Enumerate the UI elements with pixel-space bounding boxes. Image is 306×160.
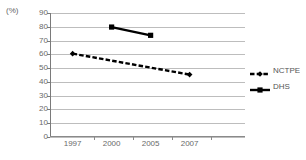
- legend-label-nctpe: NCTPE: [273, 66, 300, 75]
- y-tick-mark-30: [47, 96, 50, 97]
- y-tick-mark-10: [47, 123, 50, 124]
- y-tick-mark-50: [47, 68, 50, 69]
- y-tick-mark-40: [47, 82, 50, 83]
- legend-key-dhs-icon: [250, 81, 270, 91]
- series-dhs: [109, 24, 153, 37]
- y-tick-mark-90: [47, 13, 50, 14]
- data-point-nctpe-2007: [187, 72, 193, 78]
- x-axis-tick-labels: 1997200020052007: [50, 139, 245, 153]
- series-line-nctpe: [73, 54, 190, 75]
- legend-item-nctpe[interactable]: NCTPE: [250, 62, 306, 78]
- y-tick-mark-60: [47, 54, 50, 55]
- y-tick-mark-80: [47, 27, 50, 28]
- series-layer: [50, 13, 245, 137]
- data-point-dhs-2000: [109, 24, 114, 29]
- y-tick-mark-0: [47, 137, 50, 138]
- gridline-0: [50, 137, 245, 138]
- data-point-dhs-2005: [148, 33, 153, 38]
- x-axis-tick-1997: 1997: [64, 139, 82, 148]
- x-axis-tick-2007: 2007: [181, 139, 199, 148]
- plot-area: [50, 13, 245, 137]
- series-nctpe: [70, 51, 193, 78]
- chart-container: (%) 9080706050403020100 1997200020052007…: [0, 0, 306, 160]
- y-tick-mark-70: [47, 41, 50, 42]
- y-axis-tick-labels: 9080706050403020100: [28, 13, 48, 137]
- chart-legend: NCTPEDHS: [250, 62, 306, 94]
- legend-item-dhs[interactable]: DHS: [250, 78, 306, 94]
- x-axis-tick-2005: 2005: [142, 139, 160, 148]
- data-point-nctpe-1997: [70, 51, 76, 57]
- series-line-dhs: [112, 27, 151, 35]
- legend-label-dhs: DHS: [273, 82, 290, 91]
- y-axis-unit-label: (%): [6, 6, 18, 15]
- y-tick-mark-20: [47, 109, 50, 110]
- legend-key-nctpe-icon: [250, 65, 270, 75]
- x-axis-tick-2000: 2000: [103, 139, 121, 148]
